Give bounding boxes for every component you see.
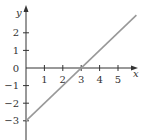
axes [24, 5, 139, 140]
y-tick-label: −1 [4, 80, 19, 91]
y-tick-label: 1 [13, 45, 19, 56]
ticks: 12345210−1−2−3 [4, 27, 121, 126]
x-axis-label: x [133, 68, 139, 79]
x-tick-label: 1 [41, 74, 47, 85]
x-tick-label: 5 [115, 74, 121, 85]
y-axis-arrow-icon [24, 5, 29, 12]
y-axis-label: y [15, 7, 22, 18]
y-tick-label: −3 [4, 115, 19, 126]
x-tick-label: 3 [78, 74, 84, 85]
y-tick-label: 0 [13, 63, 19, 74]
y-tick-label: 2 [13, 27, 19, 38]
x-tick-label: 4 [96, 74, 102, 85]
chart: 12345210−1−2−3 x y [0, 0, 143, 140]
y-tick-label: −2 [4, 98, 19, 109]
